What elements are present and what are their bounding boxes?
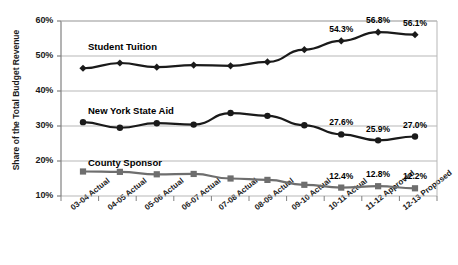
point-label: 25.9% [366, 124, 390, 134]
marker-circle [264, 113, 270, 119]
marker-square [264, 177, 270, 183]
marker-diamond [153, 64, 160, 71]
marker-diamond [411, 31, 418, 38]
marker-diamond [227, 62, 234, 69]
series-label-county-sponsor: County Sponsor [88, 157, 162, 168]
marker-circle [80, 119, 86, 125]
marker-circle [412, 133, 418, 139]
marker-circle [375, 137, 381, 143]
point-label: 12.4% [329, 171, 353, 181]
marker-square [338, 185, 344, 191]
point-label: 12.2% [403, 171, 427, 181]
point-label: 54.3% [329, 24, 353, 34]
marker-circle [117, 125, 123, 131]
marker-square [375, 183, 381, 189]
point-label: 27.0% [403, 120, 427, 130]
marker-circle [227, 110, 233, 116]
x-axis-ticks [61, 196, 437, 201]
marker-diamond [338, 37, 345, 44]
marker-square [117, 169, 123, 175]
marker-circle [154, 120, 160, 126]
marker-diamond [190, 62, 197, 69]
marker-diamond [116, 59, 123, 66]
marker-circle [338, 131, 344, 137]
marker-circle [301, 122, 307, 128]
marker-square [301, 182, 307, 188]
marker-diamond [375, 29, 382, 36]
marker-square [154, 171, 160, 177]
series-label-new-york-state-aid: New York State Aid [88, 105, 174, 116]
chart-container: Share of the Total Budget Revenue 10%20%… [0, 0, 458, 265]
marker-square [80, 168, 86, 174]
marker-diamond [79, 65, 86, 72]
point-label: 12.8% [366, 169, 390, 179]
marker-diamond [301, 46, 308, 53]
marker-square [227, 175, 233, 181]
point-label: 27.6% [329, 117, 353, 127]
point-label: 56.8% [366, 15, 390, 25]
marker-square [412, 185, 418, 191]
series-label-student-tuition: Student Tuition [88, 41, 157, 52]
point-label: 56.1% [403, 18, 427, 28]
marker-diamond [264, 58, 271, 65]
marker-circle [190, 121, 196, 127]
marker-square [191, 171, 197, 177]
